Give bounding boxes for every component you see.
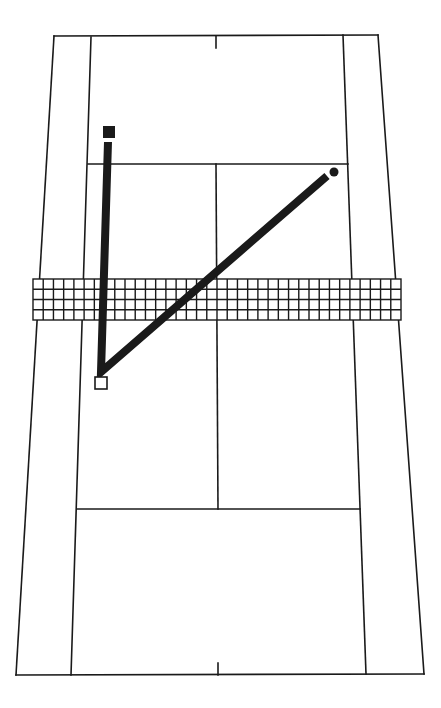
singles-right-line <box>343 35 366 674</box>
singles-left-line <box>71 37 91 675</box>
shot-path <box>101 142 327 372</box>
tennis-net <box>33 279 401 320</box>
shot-trajectory-line <box>101 142 327 372</box>
center-service-line-line <box>216 164 218 509</box>
tennis-court-diagram <box>0 0 441 708</box>
doubles-right-line <box>378 35 424 674</box>
doubles-left-line <box>16 36 54 675</box>
filled-square-marker-icon <box>103 126 115 138</box>
ball-dot-icon <box>330 168 339 177</box>
baseline-bottom-line <box>16 674 424 675</box>
hollow-square-marker-icon <box>95 377 107 389</box>
tennis-court <box>16 35 424 675</box>
